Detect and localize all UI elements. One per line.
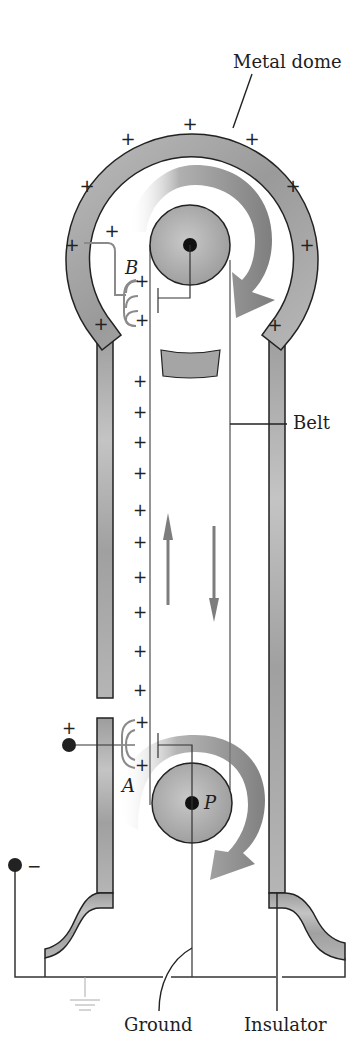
negative-terminal [8,858,22,872]
positive-terminal [62,738,76,752]
comb-a-label: A [120,775,135,796]
svg-text:+: + [133,641,147,661]
comb-b-label: B [124,257,138,278]
svg-text:+: + [133,680,147,700]
svg-text:+: + [267,314,282,335]
svg-text:+: + [133,602,147,622]
svg-text:+: + [285,175,300,196]
top-pulley [150,205,230,313]
inner-shield-piece [161,350,220,378]
svg-text:+: + [135,755,149,775]
svg-text:+: + [133,463,147,483]
left-column-wall [45,330,113,958]
van-de-graaff-diagram: + + + + + + + + + + + + + + + + + + + + … [0,0,352,1060]
belt [150,245,230,805]
dome-leader-line [233,74,252,128]
ground-leader-line [159,948,192,1011]
svg-text:+: + [182,113,197,134]
belt-label: Belt [293,412,331,433]
svg-text:+: + [135,712,149,732]
svg-text:+: + [133,402,147,422]
svg-text:+: + [299,234,314,255]
svg-text:+: + [120,128,135,149]
svg-text:+: + [133,500,147,520]
positive-source-sign: + [62,718,76,738]
ground-wire [15,868,345,977]
insulator-label: Insulator [244,1014,327,1035]
belt-down-arrow-icon [209,526,219,622]
svg-text:+: + [104,220,119,241]
ground-label: Ground [124,1014,193,1035]
svg-text:+: + [79,175,94,196]
svg-text:+: + [133,532,147,552]
belt-charges: + + + + + + + + + + [133,371,147,700]
svg-text:+: + [133,432,147,452]
svg-text:+: + [244,128,259,149]
svg-text:+: + [135,310,149,330]
svg-text:+: + [133,567,147,587]
metal-dome-label: Metal dome [233,51,342,72]
belt-up-arrow-icon [163,513,173,605]
svg-text:+: + [64,234,79,255]
negative-source-sign: − [27,856,41,876]
pulley-p-label: P [203,792,217,813]
svg-text:+: + [133,371,147,391]
svg-text:+: + [93,313,108,334]
ground-symbol-icon [70,977,100,1010]
